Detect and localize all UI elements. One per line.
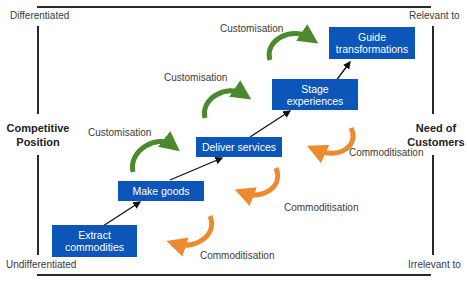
stage-label-line2: transformations: [336, 43, 408, 55]
stage-label-line1: Stage: [301, 83, 328, 95]
stage-guide-transformations: Guide transformations: [329, 27, 415, 59]
stage-label-line1: Guide: [358, 31, 386, 43]
customisation-label-1: Customisation: [88, 127, 151, 138]
stage-label-line1: Extract: [78, 229, 111, 241]
commoditisation-label-2: Commoditisation: [284, 202, 358, 213]
customisation-label-3: Customisation: [220, 23, 283, 34]
stage-deliver-services: Deliver services: [196, 137, 282, 157]
customisation-label-2: Customisation: [164, 72, 227, 83]
stage-label-line1: Make goods: [132, 185, 189, 197]
stage-make-goods: Make goods: [118, 181, 204, 201]
stage-stage-experiences: Stage experiences: [272, 79, 358, 110]
stage-label-line1: Deliver services: [202, 141, 276, 153]
stage-label-line2: commodities: [65, 241, 124, 253]
commoditisation-label-3: Commoditisation: [349, 147, 423, 158]
commoditisation-label-1: Commoditisation: [200, 250, 274, 261]
stage-label-line2: experiences: [287, 95, 344, 107]
stage-extract-commodities: Extract commodities: [52, 225, 137, 257]
